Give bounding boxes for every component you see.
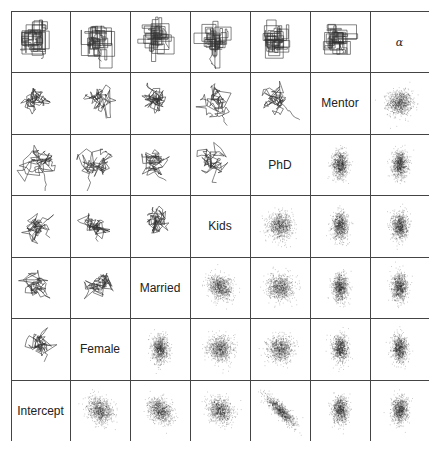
- scatter-cloud: [202, 392, 242, 429]
- scatter-cloud: [326, 206, 353, 246]
- trace-path: [17, 145, 55, 191]
- scatter-cloud: [259, 332, 299, 368]
- trace-path: [84, 273, 114, 299]
- trace-path: [25, 328, 57, 362]
- trace-path: [194, 21, 231, 69]
- diagonal-label-alpha: α: [396, 36, 404, 49]
- scatter-cloud: [258, 390, 303, 435]
- trace-path: [84, 85, 116, 119]
- scatter-cloud: [328, 270, 353, 307]
- trace-path: [21, 88, 51, 114]
- trace-path: [21, 20, 50, 59]
- scatter-cloud: [260, 208, 297, 247]
- scatter-cloud: [384, 390, 413, 433]
- trace-path: [78, 213, 110, 241]
- trace-path: [77, 149, 112, 191]
- trace-path: [147, 206, 169, 233]
- scatter-cloud: [328, 393, 351, 434]
- trace-path: [196, 84, 231, 126]
- matrix-svg: InterceptFemaleMarriedKidsPhDMentorα: [11, 11, 429, 441]
- trace-path: [22, 214, 54, 244]
- scatter-cloud: [375, 82, 418, 128]
- scatter-cloud: [79, 390, 118, 430]
- diagonal-label-kids: Kids: [208, 219, 231, 233]
- scatter-cloud: [328, 146, 353, 184]
- scatter-cloud: [387, 204, 412, 249]
- scatter-cloud: [260, 267, 300, 307]
- trace-path: [19, 270, 51, 298]
- scatter-cloud: [202, 265, 240, 309]
- scatter-cloud: [144, 391, 179, 433]
- scatter-cloud: [202, 331, 238, 373]
- trace-path: [81, 26, 114, 68]
- diagonal-label-mentor: Mentor: [321, 96, 358, 110]
- trace-path: [142, 83, 166, 113]
- diagonal-label-phd: PhD: [268, 158, 292, 172]
- scatterplot-matrix: InterceptFemaleMarriedKidsPhDMentorα: [11, 11, 429, 441]
- trace-path: [323, 24, 357, 54]
- trace-path: [262, 81, 300, 120]
- scatter-cloud: [387, 145, 414, 183]
- trace-path: [142, 150, 170, 181]
- trace-path: [138, 17, 174, 61]
- diagonal-label-married: Married: [140, 281, 181, 295]
- trace-path: [263, 20, 290, 58]
- scatter-cloud: [387, 262, 412, 308]
- scatter-cloud: [148, 330, 172, 374]
- diagonal-label-intercept: Intercept: [17, 404, 64, 418]
- scatter-cloud: [326, 328, 353, 372]
- trace-path: [197, 142, 228, 182]
- scatter-cloud: [386, 327, 413, 369]
- diagonal-label-female: Female: [80, 342, 120, 356]
